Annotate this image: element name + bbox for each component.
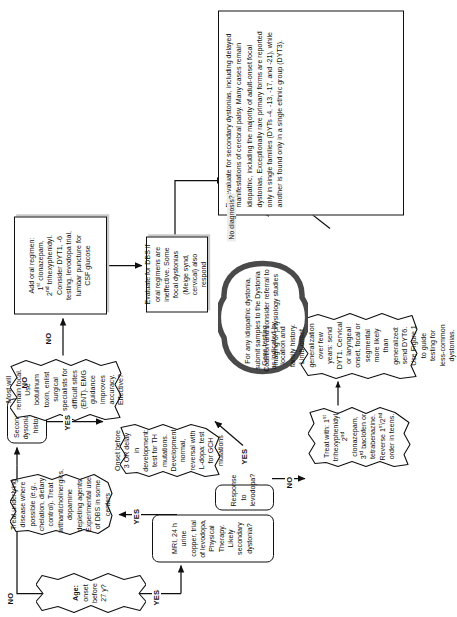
edge-label-levodopa-no: NO [285, 475, 294, 489]
node-gene-testing[interactable]: Gene testing as indicated by location an… [300, 311, 418, 379]
note-reevaluate-text: Re-evaluate for secondary dystonias, inc… [225, 31, 284, 207]
add-oral-line-5: lumbar puncture for [75, 234, 83, 296]
node-onset-before-3[interactable]: Onset before 3 OR delay in development: … [120, 423, 220, 477]
edge-label-no-diagnosis: No diagnosis? [227, 193, 236, 241]
node-gene-testing-label: Gene testing as indicated by location an… [261, 314, 457, 376]
add-oral-line-6: CSF glucose [84, 245, 92, 286]
add-oral-line-1: 1st clonazepam, [37, 240, 45, 290]
node-levodopa-response[interactable]: Response to levodopa? [215, 484, 274, 510]
node-remain-focal-label: Most will remain focal. Use botulinum to… [5, 360, 127, 418]
node-treat-with-label: Treat with: 1st trihexyphenidyl, 2nd clo… [323, 404, 398, 467]
add-oral-line-2: 2nd trihexyphenidyl. [46, 235, 54, 296]
node-remain-focal[interactable]: Most will remain focal. Use botulinum to… [10, 357, 122, 421]
node-age-decision[interactable]: Age: onset before 27 y? [36, 572, 146, 613]
edge-label-age-yes: YES [152, 588, 161, 606]
node-mri-workup[interactable]: MRI, 24 h urine copper, trial of levodop… [152, 514, 274, 562]
node-treat-with[interactable]: Treat with: 1st trihexyphenidyl, 2nd clo… [308, 405, 412, 467]
node-evaluate-dbs-label: Evaluate for DBS if oral regimens are in… [144, 240, 210, 308]
edge-label-age-no: NO [6, 591, 15, 605]
node-onset-before-3-label: Onset before 3 OR delay in development: … [114, 422, 226, 479]
node-levodopa-response-label: Response to levodopa? [230, 488, 258, 506]
node-evaluate-dbs[interactable]: Evaluate for DBS if oral regimens are in… [146, 236, 208, 312]
edge-label-levodopa-yes: YES [240, 447, 249, 465]
node-treat-underlying[interactable]: Treat underlying disease where possible … [10, 473, 113, 535]
node-mri-workup-label: MRI, 24 h urine copper, trial of levodop… [171, 518, 255, 558]
node-age-decision-label: Age: onset before 27 y? [72, 575, 109, 610]
add-oral-line-3: Consider DYT1, -6 [56, 236, 64, 295]
note-reevaluate: Re-evaluate for secondary dystonias, inc… [218, 10, 404, 215]
edge-label-mri-yes: YES [132, 507, 141, 525]
edge-label-focal-no: NO [44, 331, 53, 345]
node-add-oral-regimen-label: Add oral regimen: 1st clonazepam, 2nd tr… [28, 220, 94, 310]
node-add-oral-regimen[interactable]: Add oral regimen: 1st clonazepam, 2nd tr… [14, 216, 107, 314]
node-treat-underlying-label: Treat underlying disease where possible … [10, 469, 113, 539]
add-oral-line-4: testing, levodopa trial, [65, 231, 73, 300]
node-idiopathic-cloud-label: For any idiopathic dystonia, submit samp… [244, 256, 281, 384]
